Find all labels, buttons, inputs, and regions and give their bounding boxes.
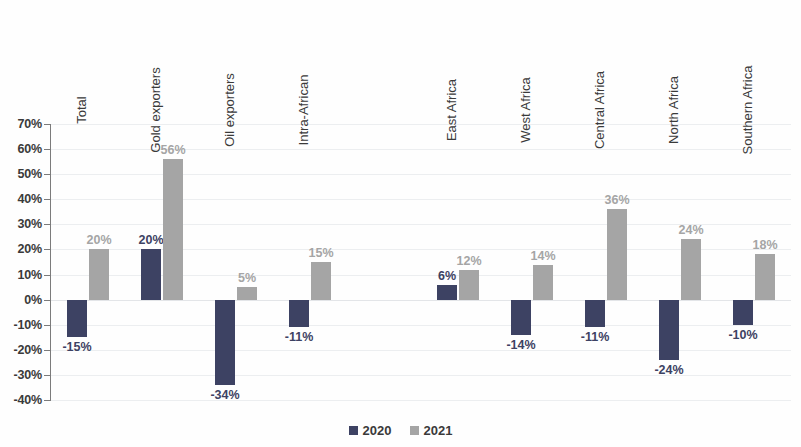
y-axis-labels: 70%60%50%40%30%20%10%0%-10%-20%-30%-40% (0, 0, 42, 447)
category-label-wrap: West Africa (495, 0, 569, 110)
category-label-wrap: Gold exporters (125, 0, 199, 110)
bar-value-label: 5% (217, 272, 277, 285)
bar-2020 (659, 300, 679, 360)
category-label-wrap: Intra-African (273, 0, 347, 110)
category-label-wrap: North Africa (643, 0, 717, 110)
y-axis-tick-label: -30% (0, 369, 42, 382)
category-label: Intra-African (297, 75, 310, 146)
y-axis-tick-label: -10% (0, 319, 42, 332)
category-group: -24%24% (643, 124, 717, 400)
y-axis-tick-label: 30% (0, 218, 42, 231)
bar-2021 (89, 249, 109, 299)
category-group: 6%12% (421, 124, 495, 400)
category-label: Oil exporters (223, 73, 236, 147)
category-group: -14%14% (495, 124, 569, 400)
legend-label: 2021 (424, 424, 453, 437)
category-group: -11%36% (569, 124, 643, 400)
bar-2021 (459, 270, 479, 300)
y-axis-tick (44, 249, 51, 250)
chart-legend: 20202021 (0, 424, 801, 437)
y-axis-tick-label: 20% (0, 243, 42, 256)
legend-item[interactable]: 2020 (349, 424, 392, 437)
category-group: -11%15% (273, 124, 347, 400)
category-label: North Africa (667, 76, 680, 144)
bar-2020 (437, 285, 457, 300)
y-axis-tick (44, 350, 51, 351)
y-axis-tick-label: -40% (0, 394, 42, 407)
category-label: Total (75, 96, 88, 123)
bar-2021 (163, 159, 183, 300)
y-axis-tick (44, 224, 51, 225)
bar-value-label: 24% (661, 224, 721, 237)
bar-2021 (311, 262, 331, 300)
y-axis-tick-label: 40% (0, 193, 42, 206)
bar-value-label: -10% (713, 329, 773, 342)
category-label: Central Africa (593, 71, 606, 149)
bar-2020 (585, 300, 605, 328)
y-axis-tick-label: 60% (0, 143, 42, 156)
y-axis-tick-label: 10% (0, 269, 42, 282)
bar-2021 (237, 287, 257, 300)
bar-value-label: 20% (69, 234, 129, 247)
legend-swatch-icon (410, 426, 419, 435)
y-axis-tick (44, 375, 51, 376)
y-axis-tick (44, 400, 51, 401)
bar-value-label: -11% (269, 331, 329, 344)
category-label: East Africa (445, 79, 458, 141)
bar-2020 (511, 300, 531, 335)
bar-2021 (533, 265, 553, 300)
bar-value-label: 15% (291, 247, 351, 260)
legend-swatch-icon (349, 426, 358, 435)
bar-value-label: -15% (47, 341, 107, 354)
category-label: Southern Africa (741, 66, 754, 155)
bar-2020 (289, 300, 309, 328)
y-axis-tick (44, 325, 51, 326)
bar-value-label: -14% (491, 339, 551, 352)
category-label-wrap: Total (51, 0, 125, 110)
y-axis-tick (44, 149, 51, 150)
category-label-wrap: Oil exporters (199, 0, 273, 110)
category-group: -10%18% (717, 124, 791, 400)
bar-chart: 70%60%50%40%30%20%10%0%-10%-20%-30%-40% … (0, 0, 801, 447)
y-axis-tick (44, 174, 51, 175)
category-label: West Africa (519, 77, 532, 143)
bar-2020 (733, 300, 753, 325)
bar-2021 (607, 209, 627, 299)
bar-2021 (755, 254, 775, 299)
bar-value-label: 18% (735, 239, 795, 252)
category-label: Gold exporters (149, 67, 162, 152)
bar-value-label: -11% (565, 331, 625, 344)
gridline (51, 400, 791, 401)
plot-area: -15%20%20%56%-34%5%-11%15%6%12%-14%14%-1… (51, 124, 791, 400)
bar-value-label: -34% (195, 389, 255, 402)
bar-value-label: 36% (587, 194, 647, 207)
y-axis-tick (44, 199, 51, 200)
category-group: 20%56% (125, 124, 199, 400)
category-group (347, 124, 421, 400)
bar-2020 (141, 249, 161, 299)
legend-item[interactable]: 2021 (410, 424, 453, 437)
category-label-wrap: Southern Africa (717, 0, 791, 110)
bar-2020 (215, 300, 235, 385)
bar-value-label: -24% (639, 364, 699, 377)
category-label-wrap: Central Africa (569, 0, 643, 110)
y-axis-tick-label: 50% (0, 168, 42, 181)
y-axis-tick (44, 275, 51, 276)
y-axis-tick (44, 300, 51, 301)
bar-value-label: 12% (439, 255, 499, 268)
legend-label: 2020 (363, 424, 392, 437)
bar-2021 (681, 239, 701, 299)
y-axis-tick-label: 70% (0, 118, 42, 131)
y-axis-tick (44, 124, 51, 125)
bar-2020 (67, 300, 87, 338)
category-label-wrap: East Africa (421, 0, 495, 110)
y-axis-tick-label: 0% (0, 294, 42, 307)
y-axis-tick-label: -20% (0, 344, 42, 357)
bar-value-label: 14% (513, 250, 573, 263)
category-group: -15%20% (51, 124, 125, 400)
category-group: -34%5% (199, 124, 273, 400)
